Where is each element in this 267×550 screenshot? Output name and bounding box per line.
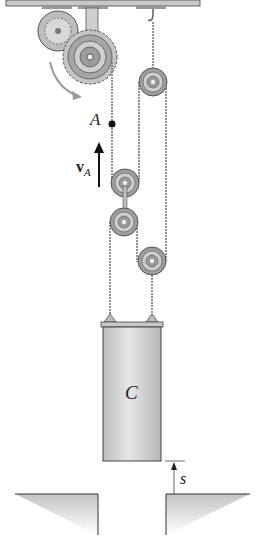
displacement-label: s (180, 470, 186, 488)
velocity-arrow-icon (94, 142, 104, 187)
pulley-diagram (0, 0, 267, 550)
rotation-arrowhead-icon (72, 91, 82, 100)
hook-icon (148, 9, 153, 20)
block-c-label: C (125, 382, 138, 404)
point-a-label: A (90, 110, 100, 130)
fixed-pulley-icon (139, 68, 167, 96)
velocity-subscript: A (84, 166, 91, 178)
movable-pulley-3-icon (138, 247, 166, 275)
movable-pulley-2-icon (110, 208, 138, 236)
ceiling (6, 0, 200, 9)
velocity-label: vA (76, 158, 91, 178)
drive-pulley-icon (63, 30, 117, 84)
ground (15, 494, 250, 535)
velocity-symbol: v (76, 158, 84, 175)
point-a-marker (109, 121, 116, 128)
